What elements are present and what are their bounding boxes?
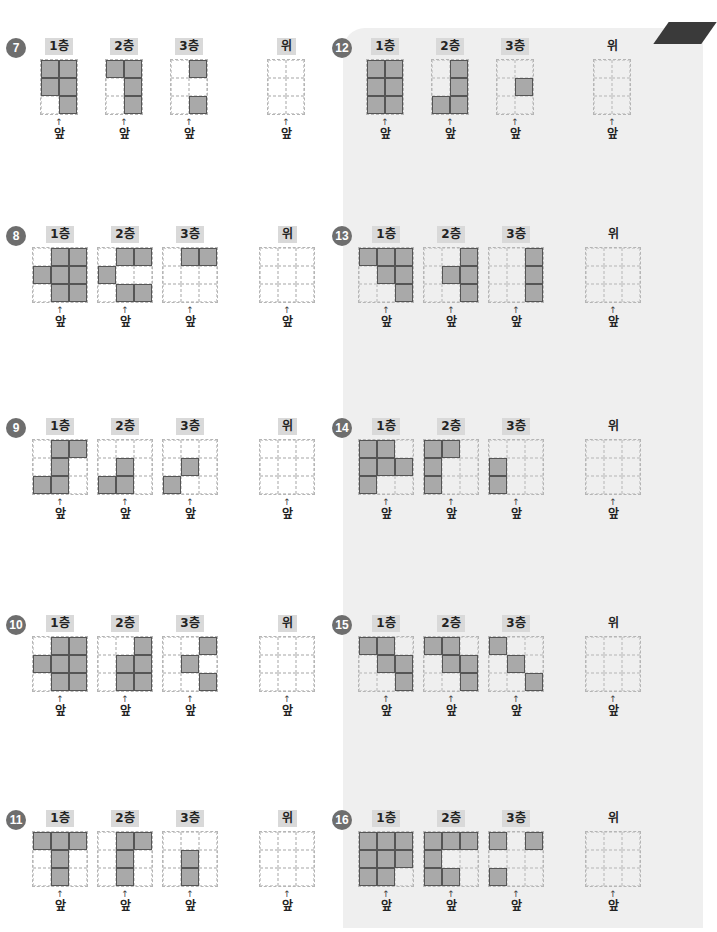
empty-grid-cell[interactable] (260, 266, 278, 284)
empty-grid-cell[interactable] (604, 458, 622, 476)
empty-grid-cell[interactable] (260, 637, 278, 655)
empty-grid-cell[interactable] (586, 832, 604, 850)
empty-grid-cell[interactable] (296, 284, 314, 302)
empty-grid-cell[interactable] (278, 458, 296, 476)
empty-grid-cell[interactable] (594, 78, 612, 96)
empty-grid-cell[interactable] (296, 655, 314, 673)
empty-grid-cell[interactable] (586, 673, 604, 691)
empty-grid-cell[interactable] (296, 458, 314, 476)
empty-grid-cell[interactable] (296, 850, 314, 868)
empty-grid-cell[interactable] (586, 868, 604, 886)
empty-grid-cell[interactable] (296, 248, 314, 266)
empty-grid-cell[interactable] (622, 850, 640, 868)
empty-grid-cell[interactable] (278, 284, 296, 302)
empty-grid-cell[interactable] (622, 458, 640, 476)
empty-grid-cell[interactable] (296, 673, 314, 691)
top-view-grid[interactable] (259, 439, 315, 495)
empty-grid-cell[interactable] (622, 832, 640, 850)
empty-grid-cell[interactable] (586, 476, 604, 494)
empty-grid-cell[interactable] (260, 248, 278, 266)
empty-grid-cell[interactable] (260, 673, 278, 691)
empty-grid-cell[interactable] (296, 266, 314, 284)
empty-grid-cell[interactable] (278, 868, 296, 886)
empty-grid-cell[interactable] (622, 476, 640, 494)
empty-grid-cell[interactable] (622, 440, 640, 458)
empty-grid-cell[interactable] (278, 850, 296, 868)
empty-grid-cell[interactable] (586, 637, 604, 655)
empty-grid-cell[interactable] (594, 96, 612, 114)
empty-grid-cell[interactable] (586, 458, 604, 476)
empty-grid-cell[interactable] (622, 673, 640, 691)
empty-grid-cell[interactable] (586, 850, 604, 868)
empty-grid-cell[interactable] (260, 476, 278, 494)
top-view-grid[interactable] (259, 247, 315, 303)
top-view-grid[interactable] (585, 831, 641, 887)
empty-grid-cell[interactable] (268, 60, 286, 78)
empty-grid-cell[interactable] (594, 60, 612, 78)
empty-grid-cell[interactable] (612, 60, 630, 78)
top-view-grid[interactable] (593, 59, 631, 115)
empty-grid-cell[interactable] (604, 850, 622, 868)
empty-grid-cell[interactable] (622, 637, 640, 655)
filled-cube-cell (189, 96, 207, 114)
empty-grid-cell[interactable] (604, 832, 622, 850)
top-view-grid[interactable] (267, 59, 305, 115)
empty-grid-cell[interactable] (604, 655, 622, 673)
front-label: 앞 (282, 315, 293, 329)
empty-grid-cell[interactable] (586, 266, 604, 284)
empty-grid-cell[interactable] (296, 476, 314, 494)
empty-grid-cell[interactable] (286, 78, 304, 96)
top-view-grid[interactable] (259, 831, 315, 887)
top-view-grid[interactable] (585, 247, 641, 303)
top-view-grid[interactable] (585, 439, 641, 495)
empty-grid-cell[interactable] (278, 673, 296, 691)
empty-grid-cell[interactable] (260, 832, 278, 850)
empty-grid-cell[interactable] (622, 248, 640, 266)
empty-grid-cell[interactable] (604, 476, 622, 494)
empty-grid-cell[interactable] (278, 266, 296, 284)
empty-grid-cell[interactable] (296, 637, 314, 655)
filled-cube-cell (69, 637, 87, 655)
empty-grid-cell[interactable] (604, 284, 622, 302)
empty-grid-cell[interactable] (278, 440, 296, 458)
empty-grid-cell[interactable] (586, 655, 604, 673)
top-view-grid[interactable] (585, 636, 641, 692)
empty-grid-cell[interactable] (278, 655, 296, 673)
empty-grid-cell[interactable] (286, 60, 304, 78)
empty-grid-cell[interactable] (622, 655, 640, 673)
empty-grid-cell[interactable] (622, 284, 640, 302)
empty-grid-cell[interactable] (268, 96, 286, 114)
front-label: 앞 (608, 899, 619, 913)
empty-grid-cell[interactable] (296, 868, 314, 886)
empty-grid-cell[interactable] (278, 832, 296, 850)
empty-grid-cell[interactable] (622, 266, 640, 284)
empty-grid-cell[interactable] (586, 440, 604, 458)
empty-grid-cell[interactable] (612, 78, 630, 96)
empty-grid-cell[interactable] (268, 78, 286, 96)
empty-grid-cell[interactable] (260, 850, 278, 868)
empty-grid-cell[interactable] (296, 440, 314, 458)
empty-grid-cell[interactable] (604, 266, 622, 284)
empty-grid-cell[interactable] (604, 440, 622, 458)
empty-grid-cell[interactable] (278, 248, 296, 266)
empty-grid-cell[interactable] (260, 284, 278, 302)
empty-grid-cell[interactable] (278, 637, 296, 655)
empty-grid-cell[interactable] (260, 458, 278, 476)
empty-grid-cell[interactable] (586, 284, 604, 302)
empty-grid-cell[interactable] (296, 832, 314, 850)
empty-grid-cell[interactable] (278, 476, 296, 494)
empty-grid-cell[interactable] (260, 440, 278, 458)
empty-grid-cell[interactable] (604, 868, 622, 886)
empty-grid-cell[interactable] (260, 868, 278, 886)
empty-grid-cell[interactable] (586, 248, 604, 266)
empty-grid-cell[interactable] (286, 96, 304, 114)
empty-grid-cell[interactable] (612, 96, 630, 114)
empty-grid-cell[interactable] (604, 248, 622, 266)
empty-grid-cell[interactable] (622, 868, 640, 886)
empty-grid-cell[interactable] (260, 655, 278, 673)
top-view-grid[interactable] (259, 636, 315, 692)
filled-cube-cell (450, 60, 468, 78)
empty-grid-cell[interactable] (604, 637, 622, 655)
empty-grid-cell[interactable] (604, 673, 622, 691)
empty-grid-cell (163, 637, 181, 655)
